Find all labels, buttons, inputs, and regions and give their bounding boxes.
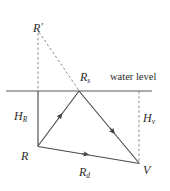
incident-ray-arrow xyxy=(58,115,61,119)
label-r-d-sub: d xyxy=(86,171,90,180)
label-h-r: HR xyxy=(14,110,27,122)
label-r-prime-mark: ′ xyxy=(41,21,43,32)
label-h-r-base: H xyxy=(14,109,23,123)
label-water-level: water level xyxy=(110,72,156,83)
label-r: R xyxy=(21,150,28,162)
label-r-d: Rd xyxy=(79,166,90,178)
label-v: V xyxy=(143,164,150,176)
direct-ray-arrow xyxy=(82,154,87,155)
label-r-s: Rs xyxy=(80,71,90,83)
label-h-v-sub: v xyxy=(152,117,155,126)
reflected-ray-arrow xyxy=(110,128,114,132)
direct-ray-line xyxy=(38,147,140,164)
label-h-v: Hv xyxy=(143,112,155,124)
dashed-virtual-ray xyxy=(39,32,80,92)
label-r-prime: R′ xyxy=(33,22,43,34)
label-h-v-base: H xyxy=(143,111,152,125)
optics-diagram-figure: R′ Rs water level HR Hv R Rd V xyxy=(0,0,170,191)
label-h-r-sub: R xyxy=(23,115,28,124)
reflected-ray-line xyxy=(79,91,139,163)
label-r-prime-base: R xyxy=(33,21,40,35)
label-r-s-sub: s xyxy=(87,76,90,85)
